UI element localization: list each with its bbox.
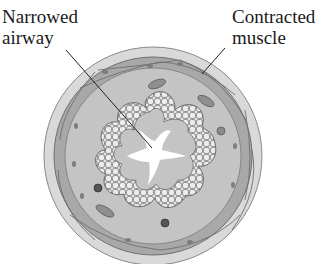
airway-cross-section — [0, 0, 326, 264]
